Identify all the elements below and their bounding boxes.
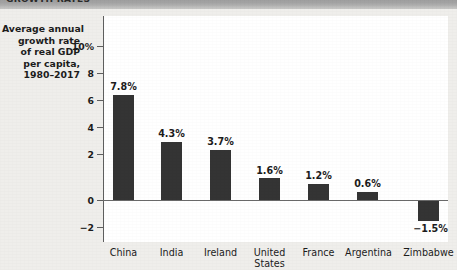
- x-category-label-united-states: United States: [247, 247, 292, 269]
- bar-china[interactable]: [113, 95, 134, 200]
- bar-argentina[interactable]: [357, 192, 378, 200]
- y-tick-label-4: 4: [30, 123, 94, 132]
- y-tick-mark-4: [97, 127, 104, 128]
- bar-value-ireland: 3.7%: [200, 137, 241, 147]
- bar-chart-figure: Average annual growth rate of real GDP p…: [0, 9, 457, 270]
- clipped-header-band: GROWTH RATES: [0, 0, 457, 9]
- bar-value-india: 4.3%: [151, 129, 192, 139]
- y-axis-title-line-1: Average annual: [2, 23, 80, 35]
- bar-value-france: 1.2%: [298, 171, 339, 181]
- y-tick-mark-2: [97, 154, 104, 155]
- x-category-label-zimbabwe: Zimbabwe: [400, 247, 457, 258]
- y-axis-line: [103, 16, 104, 242]
- bar-value-zimbabwe: −1.5%: [408, 224, 453, 234]
- y-axis-title-line-4: per capita,: [2, 58, 80, 70]
- y-tick-label-neg2: −2: [30, 223, 94, 232]
- bar-zimbabwe[interactable]: [418, 201, 439, 221]
- bar-india[interactable]: [161, 142, 182, 200]
- y-tick-label-0: 0: [30, 196, 94, 205]
- y-tick-mark-neg2: [97, 227, 104, 228]
- y-tick-label-2: 2: [30, 150, 94, 159]
- bar-united-states[interactable]: [259, 178, 280, 200]
- y-tick-mark-8: [97, 73, 104, 74]
- x-category-label-ireland: Ireland: [198, 247, 243, 258]
- y-tick-label-6: 6: [30, 96, 94, 105]
- y-tick-label-8: 8: [30, 69, 94, 78]
- x-category-label-india: India: [149, 247, 194, 258]
- bar-value-united-states: 1.6%: [249, 166, 290, 176]
- bar-ireland[interactable]: [210, 150, 231, 200]
- x-category-label-france: France: [296, 247, 341, 258]
- bar-france[interactable]: [308, 184, 329, 200]
- x-category-label-china: China: [101, 247, 146, 258]
- y-tick-mark-6: [97, 100, 104, 101]
- clipped-header-title: GROWTH RATES: [6, 0, 90, 4]
- bar-value-china: 7.8%: [103, 82, 144, 92]
- bar-value-argentina: 0.6%: [347, 179, 388, 189]
- x-category-label-united-states-line2: States: [247, 258, 292, 269]
- y-tick-mark-10: [97, 46, 104, 47]
- x-category-label-argentina: Argentina: [341, 247, 396, 258]
- x-category-label-united-states-line1: United: [254, 247, 286, 258]
- y-tick-label-10: 10%: [30, 42, 94, 51]
